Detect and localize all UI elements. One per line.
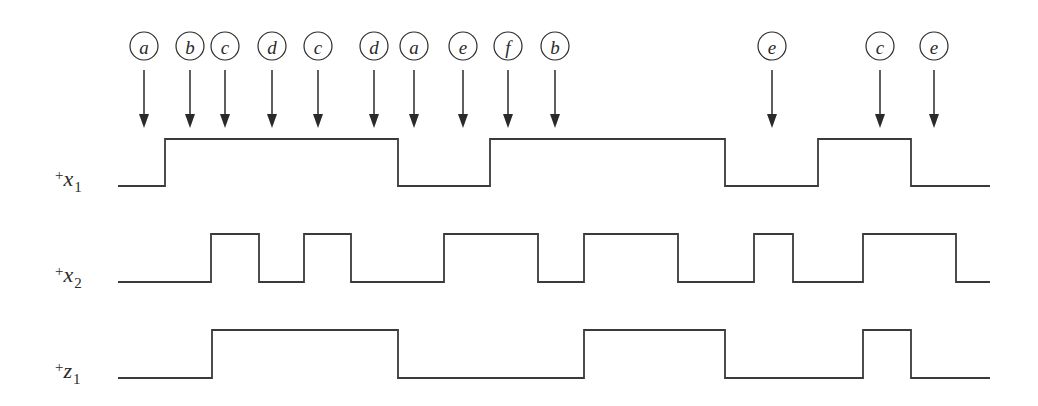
signal-subscript: 1 [73, 371, 81, 387]
event-label: e [930, 37, 938, 58]
event-label: d [267, 37, 277, 58]
signal-prefix: + [55, 167, 63, 183]
waveform-x2 [118, 234, 990, 282]
event-label: c [314, 37, 323, 58]
down-arrow-icon [409, 114, 419, 128]
event-marker: d [360, 32, 388, 128]
event-label: d [369, 37, 379, 58]
waveform-z1 [118, 330, 990, 378]
event-marker: d [258, 32, 286, 128]
timing-diagram: abcdcdaefbece +x1+x2+z1 [0, 0, 1038, 406]
waveform-x1 [118, 139, 990, 186]
down-arrow-icon [767, 114, 777, 128]
signal-label-z1: +z1 [55, 358, 81, 387]
event-marker: e [449, 32, 477, 128]
event-marker: b [541, 32, 569, 128]
signal-variable: z [62, 358, 72, 383]
event-label: c [876, 37, 885, 58]
event-marker: c [211, 32, 239, 128]
signal-subscript: 1 [74, 179, 82, 195]
signal-subscript: 2 [74, 275, 82, 291]
down-arrow-icon [220, 114, 230, 128]
event-marker: c [304, 32, 332, 128]
down-arrow-icon [369, 114, 379, 128]
down-arrow-icon [267, 114, 277, 128]
signal-label-x2: +x2 [55, 262, 82, 291]
event-markers: abcdcdaefbece [130, 32, 948, 128]
down-arrow-icon [458, 114, 468, 128]
signal-variable: x [62, 166, 73, 191]
event-marker: e [758, 32, 786, 128]
event-label: c [221, 37, 230, 58]
event-marker: a [400, 32, 428, 128]
signal-variable: x [62, 262, 73, 287]
down-arrow-icon [929, 114, 939, 128]
event-marker: c [866, 32, 894, 128]
event-marker: b [176, 32, 204, 128]
down-arrow-icon [875, 114, 885, 128]
event-label: a [409, 37, 419, 58]
event-marker: a [130, 32, 158, 128]
down-arrow-icon [139, 114, 149, 128]
down-arrow-icon [503, 114, 513, 128]
event-label: b [185, 37, 195, 58]
down-arrow-icon [550, 114, 560, 128]
event-label: f [505, 37, 513, 58]
event-label: a [139, 37, 149, 58]
signal-waveforms [118, 139, 990, 378]
signal-label-x1: +x1 [55, 166, 82, 195]
signal-prefix: + [55, 359, 63, 375]
event-marker: f [494, 32, 522, 128]
event-label: e [768, 37, 776, 58]
down-arrow-icon [185, 114, 195, 128]
signal-labels: +x1+x2+z1 [55, 166, 82, 387]
down-arrow-icon [313, 114, 323, 128]
event-label: b [550, 37, 560, 58]
event-label: e [459, 37, 467, 58]
signal-prefix: + [55, 263, 63, 279]
event-marker: e [920, 32, 948, 128]
